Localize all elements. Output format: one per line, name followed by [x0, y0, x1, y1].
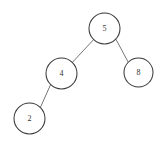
- tree-edge: [72, 40, 93, 63]
- tree-node-label: 8: [137, 68, 141, 77]
- tree-edge: [116, 39, 128, 62]
- tree-node-label: 4: [60, 69, 64, 78]
- tree-edge: [40, 85, 50, 108]
- tree-nodes-group: 5482: [14, 13, 153, 134]
- tree-node: 4: [46, 58, 77, 89]
- tree-node-label: 5: [103, 24, 107, 33]
- binary-tree-diagram: 5482: [0, 0, 165, 143]
- tree-canvas: 5482: [0, 0, 165, 143]
- tree-node: 8: [124, 58, 153, 87]
- tree-node: 5: [89, 13, 120, 44]
- tree-node-label: 2: [28, 114, 32, 123]
- tree-node: 2: [14, 103, 45, 134]
